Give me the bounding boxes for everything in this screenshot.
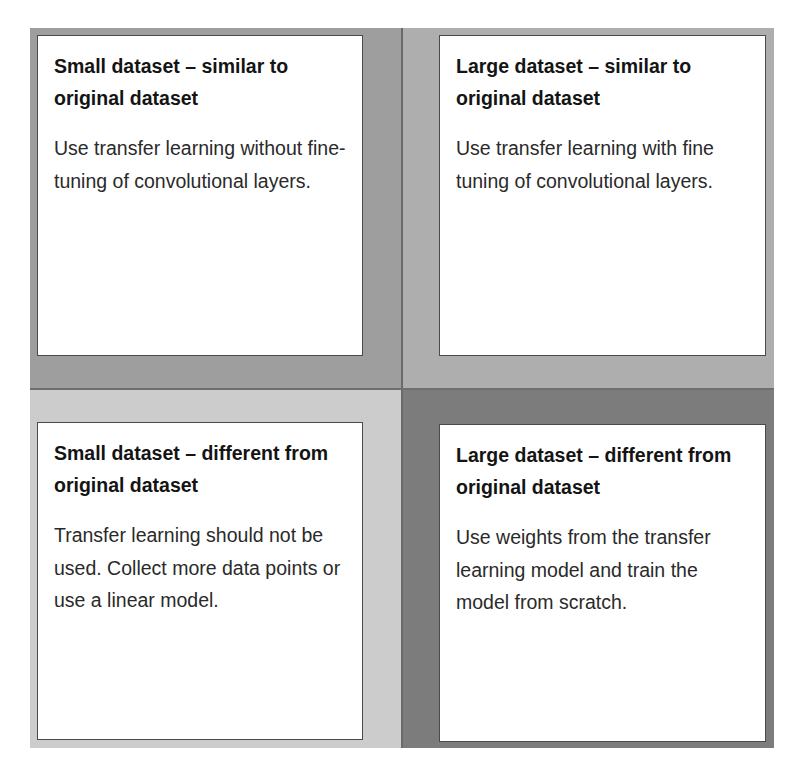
- card-body: Transfer learning should not be used. Co…: [54, 519, 348, 617]
- card-body: Use transfer learning with fine tuning o…: [456, 132, 751, 197]
- card-title: Small dataset – different from original …: [54, 437, 348, 501]
- card-body: Use transfer learning without fine-tunin…: [54, 132, 348, 197]
- horizontal-divider: [30, 388, 774, 390]
- decision-matrix: Small dataset – similar to original data…: [30, 28, 774, 748]
- card-title: Large dataset – different from original …: [456, 439, 751, 503]
- card-small-similar: Small dataset – similar to original data…: [37, 35, 363, 356]
- card-title: Large dataset – similar to original data…: [456, 50, 751, 114]
- quadrant-small-similar: Small dataset – similar to original data…: [30, 28, 402, 389]
- quadrant-large-different: Large dataset – different from original …: [402, 389, 774, 748]
- quadrant-small-different: Small dataset – different from original …: [30, 389, 402, 748]
- card-body: Use weights from the transfer learning m…: [456, 521, 751, 619]
- quadrant-large-similar: Large dataset – similar to original data…: [402, 28, 774, 389]
- card-title: Small dataset – similar to original data…: [54, 50, 348, 114]
- card-small-different: Small dataset – different from original …: [37, 422, 363, 740]
- card-large-different: Large dataset – different from original …: [439, 424, 766, 742]
- card-large-similar: Large dataset – similar to original data…: [439, 35, 766, 356]
